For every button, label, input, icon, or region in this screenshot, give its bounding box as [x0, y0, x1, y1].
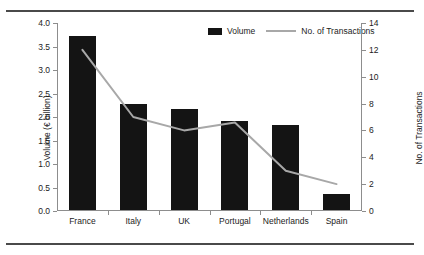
x-axis-tick: [108, 211, 109, 215]
right-axis-tick: [362, 77, 366, 78]
x-axis-label-france: France: [69, 217, 95, 226]
right-axis-tick: [362, 50, 366, 51]
right-axis-tick-label: 6: [369, 126, 374, 135]
left-axis-tick-label: 2.0: [38, 113, 50, 122]
left-axis-tick-label: 2.5: [38, 90, 50, 99]
line-series-transactions: [57, 23, 362, 211]
left-axis-tick-label: 3.5: [38, 43, 50, 52]
right-axis-tick-label: 14: [369, 19, 378, 28]
right-axis-tick-label: 2: [369, 180, 374, 189]
left-axis-tick: [53, 211, 57, 212]
bottom-divider-rule: [6, 243, 414, 245]
right-axis-tick-label: 12: [369, 46, 378, 55]
transactions-polyline: [82, 50, 336, 184]
left-axis-tick-label: 0.0: [38, 207, 50, 216]
right-axis-tick-label: 0: [369, 207, 374, 216]
right-axis-tick: [362, 23, 366, 24]
x-axis-tick: [210, 211, 211, 215]
right-axis-tick-label: 8: [369, 100, 374, 109]
right-axis-tick-label: 10: [369, 73, 378, 82]
plot-area: 0.00.51.01.52.02.53.03.54.0 02468101214 …: [57, 23, 362, 211]
right-axis-tick: [362, 157, 366, 158]
x-axis-label-spain: Spain: [326, 217, 348, 226]
left-axis-tick-label: 4.0: [38, 19, 50, 28]
right-axis-tick: [362, 184, 366, 185]
x-axis-label-netherlands: Netherlands: [263, 217, 309, 226]
left-axis-title: Volume (€ billion): [42, 95, 52, 160]
right-axis-tick: [362, 211, 366, 212]
x-axis-label-portugal: Portugal: [219, 217, 251, 226]
x-axis-tick: [159, 211, 160, 215]
right-axis-title: No. of Transactions: [414, 91, 424, 164]
left-axis-tick-label: 3.0: [38, 66, 50, 75]
x-axis-label-uk: UK: [178, 217, 190, 226]
right-axis-tick: [362, 130, 366, 131]
left-axis-tick-label: 1.5: [38, 137, 50, 146]
left-axis-tick-label: 1.0: [38, 160, 50, 169]
x-axis-label-italy: Italy: [125, 217, 141, 226]
x-axis-tick: [311, 211, 312, 215]
right-axis-tick: [362, 104, 366, 105]
x-axis-tick: [260, 211, 261, 215]
right-axis-tick-label: 4: [369, 153, 374, 162]
top-divider-rule: [6, 10, 414, 12]
left-axis-tick-label: 0.5: [38, 184, 50, 193]
